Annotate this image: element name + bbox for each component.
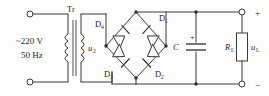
svg-text:u: u [88, 43, 92, 53]
load-resistor-group: R L u L [224, 14, 260, 81]
capacitor-node-bottom [194, 82, 197, 85]
transformer-secondary-winding [81, 14, 84, 82]
capacitor-label: C [173, 42, 179, 52]
output-terminal-positive[interactable] [239, 9, 245, 15]
output-positive-sign: + [255, 8, 260, 18]
svg-text:u: u [251, 42, 255, 52]
circuit-diagram: ~220 V 50 Hz Tr u 2 [0, 0, 269, 96]
bridge-node-left [104, 44, 107, 47]
diode-D3 [110, 44, 130, 67]
diode-D1-cathode-bar [143, 25, 151, 34]
output-terminal-negative[interactable] [239, 81, 245, 87]
capacitor-node-top [194, 10, 197, 13]
svg-text:2: 2 [161, 74, 164, 80]
load-resistor-body [237, 33, 248, 61]
output-negative-sign: − [255, 80, 260, 90]
svg-text:L: L [256, 47, 260, 53]
diode-D4-cathode-bar [122, 25, 130, 34]
transformer-group: Tr u 2 [65, 4, 96, 82]
diode-D1-label: D 1 [159, 13, 168, 24]
svg-text:R: R [224, 42, 231, 52]
secondary-voltage-label: u 2 [88, 43, 96, 54]
input-terminal-top[interactable] [27, 11, 33, 17]
load-resistor-label: R L [224, 42, 235, 53]
diode-D2-label: D 2 [155, 69, 164, 80]
diode-D4-label: D 4 [95, 19, 104, 30]
load-voltage-label: u L [251, 42, 260, 53]
input-terminal-bottom[interactable] [27, 79, 33, 85]
diode-D2 [143, 44, 163, 67]
filter-capacitor-group: C + [173, 10, 206, 85]
schematic-canvas: ~220 V 50 Hz Tr u 2 [0, 0, 269, 96]
source-voltage-label: ~220 V [16, 36, 43, 46]
svg-text:4: 4 [101, 24, 104, 30]
source-frequency-label: 50 Hz [21, 50, 43, 60]
svg-text:L: L [231, 47, 235, 53]
svg-text:2: 2 [93, 48, 96, 54]
input-source-group: ~220 V 50 Hz [16, 11, 68, 85]
capacitor-polarity-label: + [190, 33, 195, 42]
transformer-primary-winding [65, 14, 68, 82]
transformer-label: Tr [67, 4, 75, 14]
